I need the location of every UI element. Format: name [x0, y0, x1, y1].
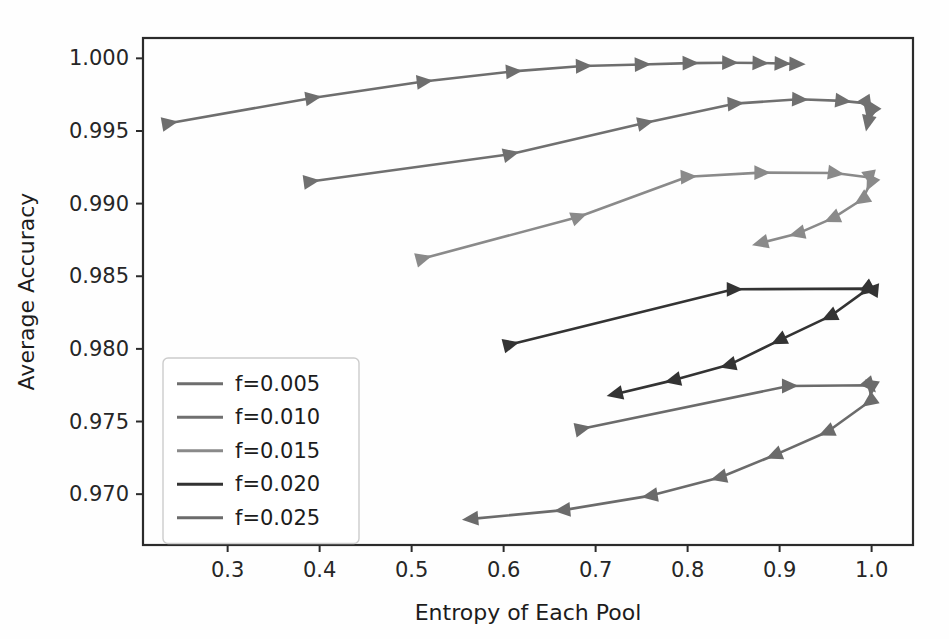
x-tick-label: 0.7: [579, 558, 612, 582]
x-tick-label: 0.9: [763, 558, 796, 582]
series-f=0.025: [461, 375, 881, 527]
y-tick-label: 0.970: [69, 482, 129, 506]
x-tick-label: 1.0: [855, 558, 888, 582]
y-tick-label: 0.975: [69, 410, 129, 434]
data-point-marker: [754, 165, 770, 180]
x-tick-label: 0.8: [671, 558, 704, 582]
series-f=0.005: [161, 55, 806, 132]
legend-label: f=0.015: [235, 439, 320, 463]
data-point-marker: [635, 57, 652, 72]
y-tick-label: 0.995: [69, 119, 129, 143]
data-point-marker: [574, 420, 593, 438]
chart-figure: 0.30.40.50.60.70.80.91.00.9700.9750.9800…: [0, 0, 949, 639]
data-point-marker: [680, 169, 697, 185]
chart-legend[interactable]: f=0.005f=0.010f=0.015f=0.020f=0.025: [163, 358, 359, 544]
data-point-marker: [663, 371, 682, 389]
y-axis-label: Average Accuracy: [14, 193, 39, 391]
y-tick-label: 0.980: [69, 337, 129, 361]
series-path: [310, 99, 871, 181]
x-tick-label: 0.4: [303, 558, 336, 582]
x-tick-label: 0.6: [487, 558, 520, 582]
data-point-marker: [502, 335, 521, 353]
data-point-marker: [416, 73, 434, 90]
x-tick-label: 0.5: [395, 558, 428, 582]
x-axis-label: Entropy of Each Pool: [415, 600, 642, 625]
data-point-marker: [718, 356, 738, 375]
data-point-marker: [858, 391, 880, 413]
data-point-marker: [859, 114, 877, 133]
plot-canvas: 0.30.40.50.60.70.80.91.00.9700.9750.9800…: [0, 0, 949, 639]
data-point-marker: [727, 282, 743, 297]
data-point-marker: [709, 469, 729, 487]
y-tick-label: 0.985: [69, 264, 129, 288]
data-point-marker: [576, 58, 593, 73]
series-f=0.015: [414, 165, 880, 268]
data-point-marker: [505, 63, 522, 79]
data-point-marker: [683, 56, 700, 71]
data-point-marker: [787, 225, 807, 243]
data-point-marker: [763, 445, 784, 465]
data-point-marker: [502, 145, 521, 163]
data-point-marker: [782, 378, 798, 393]
data-point-marker: [821, 209, 842, 229]
series-path: [423, 173, 871, 259]
data-point-marker: [605, 385, 624, 403]
data-point-marker: [750, 234, 770, 252]
y-tick-label: 0.990: [69, 192, 129, 216]
data-point-marker: [850, 189, 872, 210]
y-tick-label: 1.000: [69, 46, 129, 70]
data-point-marker: [414, 249, 434, 268]
series-path: [510, 289, 872, 394]
legend-label: f=0.020: [235, 472, 320, 496]
data-point-marker: [752, 55, 769, 70]
data-point-marker: [768, 331, 789, 351]
data-point-marker: [636, 114, 655, 132]
data-point-marker: [835, 93, 853, 109]
legend-label: f=0.005: [235, 372, 320, 396]
x-tick-label: 0.3: [211, 558, 244, 582]
data-point-marker: [569, 207, 589, 227]
data-point-marker: [827, 165, 845, 182]
data-point-marker: [816, 422, 837, 442]
data-point-marker: [774, 56, 791, 71]
data-point-marker: [461, 511, 479, 527]
series-path: [169, 63, 796, 124]
data-point-marker: [818, 307, 839, 327]
data-point-marker: [722, 55, 738, 70]
data-point-marker: [727, 96, 744, 112]
legend-label: f=0.025: [235, 506, 320, 530]
data-point-marker: [792, 92, 809, 107]
series-path: [471, 385, 871, 519]
data-point-marker: [553, 502, 571, 518]
legend-label: f=0.010: [235, 405, 320, 429]
series-f=0.010: [303, 92, 882, 190]
data-point-marker: [789, 56, 806, 71]
